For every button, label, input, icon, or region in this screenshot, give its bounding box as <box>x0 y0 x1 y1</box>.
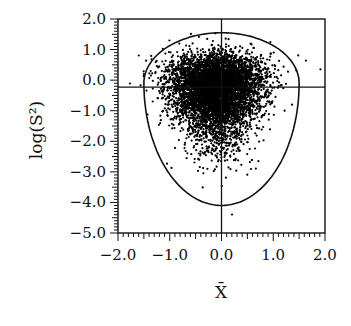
x-tick-label: 1.0 <box>261 246 285 264</box>
y-tick-label: 2.0 <box>82 10 106 28</box>
y-tick-label: −4.0 <box>70 193 106 211</box>
x-tick-label: −2.0 <box>100 246 136 264</box>
x-tick-label: 0.0 <box>210 246 234 264</box>
y-tick-label: 0.0 <box>82 71 106 89</box>
scatter-chart: 2.01.00.0−1.0−2.0−3.0−4.0−5.0 −2.0−1.00.… <box>0 0 351 326</box>
y-tick-label: −5.0 <box>70 224 106 242</box>
x-axis-title: X̄ <box>215 281 228 302</box>
y-tick-label: −3.0 <box>70 163 106 181</box>
x-axis-ticks <box>118 233 325 241</box>
y-axis-title: log(S²) <box>26 101 46 159</box>
scatter-points <box>129 32 322 215</box>
y-tick-label: 1.0 <box>82 41 106 59</box>
x-tick-label: 2.0 <box>313 246 337 264</box>
x-tick-label: −1.0 <box>152 246 188 264</box>
y-axis-ticks <box>110 19 118 233</box>
y-axis-tick-labels: 2.01.00.0−1.0−2.0−3.0−4.0−5.0 <box>70 10 106 242</box>
y-tick-label: −1.0 <box>70 102 106 120</box>
x-axis-tick-labels: −2.0−1.00.01.02.0 <box>100 246 337 264</box>
y-tick-label: −2.0 <box>70 132 106 150</box>
